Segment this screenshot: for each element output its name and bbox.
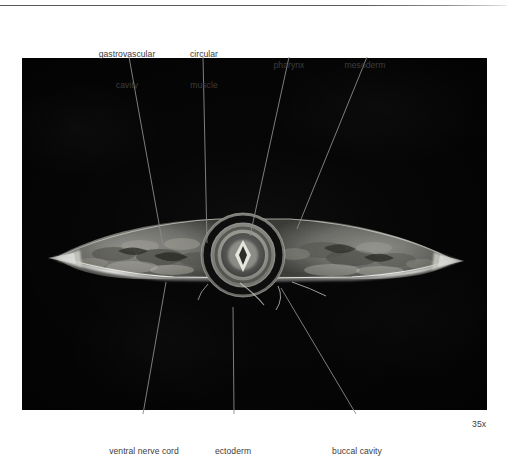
top-divider-rule xyxy=(0,5,507,6)
label-ectoderm-text: ectoderm xyxy=(205,446,261,456)
label-buccal-cavity-text: buccal cavity xyxy=(322,446,392,456)
label-mesoderm-line1: mesoderm xyxy=(336,60,394,70)
label-pharynx-line1: pharynx xyxy=(265,60,313,70)
label-gastrovascular-cavity-line2: cavity xyxy=(87,80,167,90)
label-circular-muscle-line1: circular xyxy=(178,49,230,59)
label-circular-muscle-line2: muscle xyxy=(178,80,230,90)
magnification-label: 35x xyxy=(472,419,486,429)
figure-root: gastrovascular cavity circular muscle ph… xyxy=(0,0,507,460)
label-circular-muscle: circular muscle xyxy=(178,28,230,111)
label-pharynx: pharynx xyxy=(265,39,313,91)
label-gastrovascular-cavity-line1: gastrovascular xyxy=(87,49,167,59)
label-ectoderm: ectoderm xyxy=(205,425,261,460)
pharynx-structure xyxy=(201,213,285,297)
label-ventral-nerve-cord-text: ventral nerve cord xyxy=(100,446,188,456)
label-gastrovascular-cavity: gastrovascular cavity xyxy=(87,28,167,111)
label-mesoderm: mesoderm xyxy=(336,39,394,91)
label-buccal-cavity: buccal cavity xyxy=(322,425,392,460)
label-ventral-nerve-cord: ventral nerve cord xyxy=(100,425,188,460)
